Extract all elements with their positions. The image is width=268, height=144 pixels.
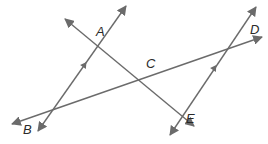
point-label-c: C [146,56,156,71]
line-ae [65,19,194,126]
parallel-marker-arrow-icon [80,60,89,69]
parallel-line-de [170,7,256,135]
geometry-diagram: A C D B E [0,0,268,144]
parallel-line-ab [38,6,126,131]
transversal-line-ace [65,19,194,126]
line-bd [12,37,262,124]
point-label-d: D [250,22,259,37]
transversal-line-bcd [12,37,262,124]
point-label-e: E [186,111,195,126]
point-label-a: A [95,24,105,39]
point-label-b: B [23,122,32,137]
line-de [170,7,256,135]
line-ab [38,6,126,131]
